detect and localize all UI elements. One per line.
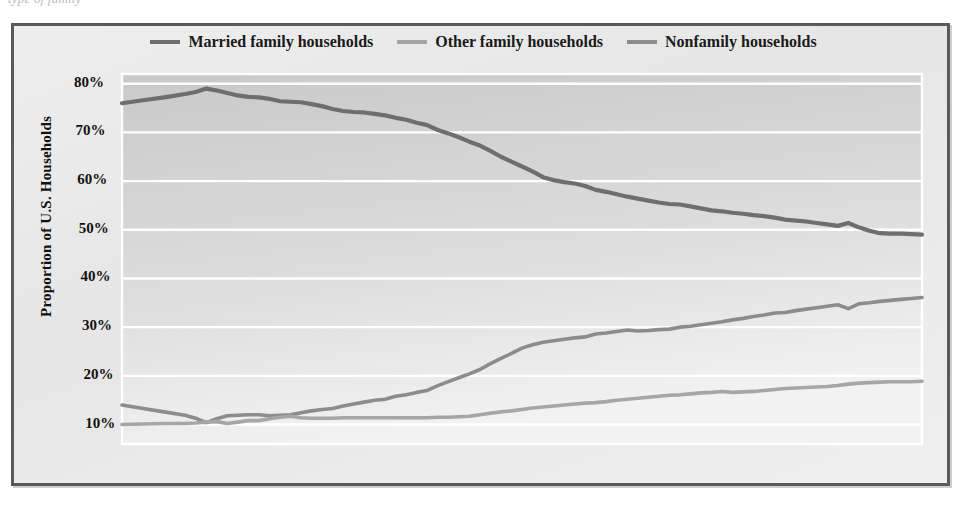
legend-label-married: Married family households — [188, 33, 373, 51]
legend-item-married[interactable]: Married family households — [150, 33, 373, 51]
caption-remnant: type of family — [8, 0, 82, 7]
plot-area-wrapper: 80%70%60%50%40%30%20%10% — [60, 56, 940, 476]
figure-frame: Married family households Other family h… — [11, 23, 950, 486]
y-tick-label: 50% — [63, 220, 109, 237]
legend-swatch-other-family — [397, 40, 427, 44]
legend-label-nonfamily: Nonfamily households — [665, 33, 817, 51]
y-tick-label: 40% — [64, 268, 110, 285]
y-tick-label: 80% — [58, 74, 104, 91]
y-axis-title: Proportion of U.S. Households — [38, 67, 55, 367]
legend-swatch-nonfamily — [627, 40, 657, 44]
y-tick-label: 70% — [60, 122, 106, 139]
legend-label-other-family: Other family households — [435, 33, 603, 51]
chart-legend: Married family households Other family h… — [14, 33, 953, 51]
line-chart-canvas — [60, 56, 940, 476]
y-tick-label: 30% — [66, 317, 112, 334]
legend-swatch-married — [150, 40, 180, 44]
y-tick-label: 20% — [68, 366, 114, 383]
y-tick-label: 10% — [69, 415, 115, 432]
y-tick-label: 60% — [61, 171, 107, 188]
figure-root: type of family Married family households… — [0, 0, 963, 515]
legend-item-nonfamily[interactable]: Nonfamily households — [627, 33, 817, 51]
legend-item-other-family[interactable]: Other family households — [397, 33, 603, 51]
